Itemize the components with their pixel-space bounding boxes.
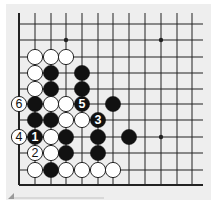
move-number-label: 6 [16, 97, 23, 111]
black-stone [43, 81, 58, 96]
white-stone [43, 49, 58, 64]
white-stone [105, 162, 120, 177]
white-stone [74, 112, 89, 127]
black-stone [43, 162, 58, 177]
white-stone [27, 162, 42, 177]
black-stone [121, 129, 136, 144]
move-number-label: 2 [32, 146, 39, 160]
white-stone [27, 65, 42, 80]
white-stone [58, 96, 73, 111]
white-stone [27, 49, 42, 64]
black-stone [58, 145, 73, 160]
white-stone [43, 145, 58, 160]
white-stone [27, 81, 42, 96]
move-number-label: 1 [32, 130, 39, 144]
white-stone [74, 162, 89, 177]
black-stone [58, 129, 73, 144]
black-stone [105, 96, 120, 111]
go-board: 653412 [0, 0, 213, 202]
white-stone [43, 96, 58, 111]
white-stone [58, 112, 73, 127]
white-stone [58, 162, 73, 177]
black-stone [27, 112, 42, 127]
hoshi-point [159, 38, 163, 42]
hoshi-point [64, 38, 68, 42]
white-stone [43, 129, 58, 144]
white-stone [58, 49, 73, 64]
black-stone [90, 129, 105, 144]
move-number-label: 3 [95, 113, 102, 127]
black-stone [27, 96, 42, 111]
black-stone [74, 65, 89, 80]
move-number-label: 5 [79, 97, 86, 111]
black-stone [43, 112, 58, 127]
black-stone [74, 81, 89, 96]
hoshi-point [159, 135, 163, 139]
bottom-band [14, 197, 104, 199]
white-stone [90, 162, 105, 177]
move-number-label: 4 [16, 130, 23, 144]
black-stone [90, 145, 105, 160]
black-stone [43, 65, 58, 80]
